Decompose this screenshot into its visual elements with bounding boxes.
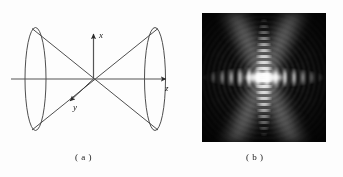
diagonal-lobe-a: [202, 13, 326, 142]
caption-panel-a: ( a ): [75, 152, 92, 162]
pattern-vignette: [202, 13, 326, 142]
vertical-streak: [202, 13, 326, 142]
x-axis-label: x: [99, 31, 103, 40]
horizontal-fringes: [202, 13, 326, 142]
diagonal-lobe-b: [202, 13, 326, 142]
cone-diagram-svg: [0, 0, 175, 177]
caption-panel-b: ( b ): [246, 152, 264, 162]
figure-container: x y z ( a ) ( b ): [0, 0, 343, 177]
y-axis-label: y: [73, 103, 77, 112]
concentric-rings: [202, 13, 326, 142]
panel-a-cone-diagram: x y z: [0, 0, 175, 177]
central-lobe: [202, 13, 326, 142]
z-axis-label: z: [165, 84, 169, 93]
panel-b-diffraction-pattern: [202, 13, 326, 142]
y-axis-line: [70, 79, 94, 101]
